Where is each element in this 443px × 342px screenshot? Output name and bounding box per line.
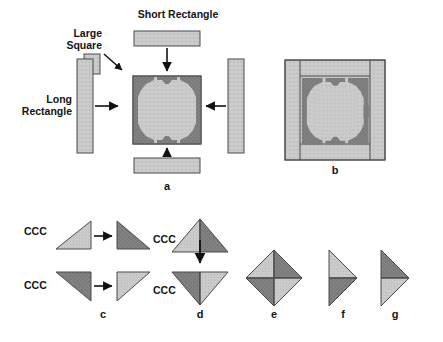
panel-c-triangle-light-bottom [117,272,150,301]
quilt-diagram [0,0,443,342]
label-large-square: Large Square [36,28,102,51]
panel-c-triangle-dark-bottom [56,272,91,301]
long-rectangle-left [77,59,93,153]
panel-c-triangle-dark-top [117,221,150,249]
label-short-rectangle: Short Rectangle [118,9,238,21]
figure-letter-f: f [323,308,363,320]
figure-letter-c: c [83,308,123,320]
figure-letter-a: a [147,180,187,192]
large-square-pointer-arrow [104,54,122,70]
panel-e-diamond [246,250,302,306]
short-rectangle-bottom [134,158,200,173]
label-long-rectangle: Long Rectangle [0,94,72,117]
block-a-center-oval [145,84,189,136]
label-ccc-2: CCC [153,234,176,246]
figure-canvas: Short Rectangle Large Square Long Rectan… [0,0,443,342]
panel-f-unit [329,250,357,306]
label-ccc-1: CCC [24,226,47,238]
diagram-svg-wrapper [0,0,443,342]
figure-letter-b: b [315,164,355,176]
figure-letter-g: g [375,308,415,320]
label-ccc-4: CCC [153,285,176,297]
quilt-block-b [285,60,385,160]
long-rectangle-right [228,59,244,153]
panel-d-triangle-down [172,272,228,305]
figure-letter-d: d [180,308,220,320]
panel-c-triangle-light-top [56,221,91,249]
short-rectangle-top [134,31,200,46]
quilt-block-a [133,76,201,144]
label-ccc-3: CCC [24,280,47,292]
figure-letter-e: e [254,308,294,320]
panel-g-unit [381,250,409,306]
